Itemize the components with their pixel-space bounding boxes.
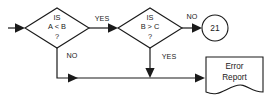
edge-decision1-yes: YES bbox=[89, 14, 118, 33]
edge-decision2-no-arrowhead-icon bbox=[192, 23, 202, 33]
edge-into-document bbox=[195, 73, 205, 82]
edge-decision2-yes-arrowhead-icon bbox=[145, 68, 154, 78]
edge-decision2-no-label: NO bbox=[187, 12, 198, 21]
decision-b-greater-than-c[interactable]: IS B > C ? bbox=[118, 8, 182, 48]
flowchart-diagram: IS A < B ? YES IS B > C ? NO 21 bbox=[0, 0, 267, 104]
decision-1-line3: ? bbox=[55, 32, 59, 41]
entry-arrow bbox=[8, 23, 25, 33]
edge-decision2-yes-label: YES bbox=[162, 52, 177, 61]
document-arrowhead-icon bbox=[195, 73, 205, 82]
decision-2-line2: B > C bbox=[141, 22, 160, 31]
connector-21[interactable]: 21 bbox=[202, 15, 228, 41]
edge-decision2-no: NO bbox=[182, 12, 202, 33]
edge-decision1-no-arrowhead-icon bbox=[68, 73, 78, 82]
error-report-line1: Error bbox=[225, 62, 243, 71]
edge-decision1-yes-label: YES bbox=[95, 14, 110, 23]
edge-decision1-no-label: NO bbox=[67, 51, 78, 60]
edge-decision1-yes-arrowhead-icon bbox=[108, 23, 118, 33]
decision-1-line2: A < B bbox=[48, 22, 66, 31]
decision-1-line1: IS bbox=[54, 13, 61, 22]
connector-circle-label: 21 bbox=[210, 23, 220, 33]
error-report-line2: Report bbox=[222, 73, 247, 82]
edge-decision1-no: NO bbox=[57, 48, 198, 83]
entry-arrowhead-icon bbox=[15, 23, 25, 33]
edge-decision2-yes: YES bbox=[145, 48, 176, 78]
error-report-document[interactable]: Error Report bbox=[206, 57, 263, 94]
edge-decision1-no-line bbox=[57, 48, 198, 78]
decision-2-line1: IS bbox=[147, 13, 154, 22]
decision-a-less-than-b[interactable]: IS A < B ? bbox=[25, 8, 89, 48]
decision-2-line3: ? bbox=[148, 32, 152, 41]
flowchart-canvas: IS A < B ? YES IS B > C ? NO 21 bbox=[0, 0, 267, 104]
